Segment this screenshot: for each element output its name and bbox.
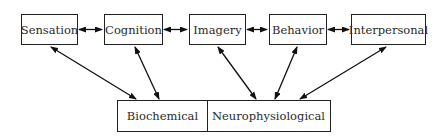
edge-imagery-neurophysiological — [218, 47, 256, 99]
node-neurophysiological: Neurophysiological — [207, 100, 331, 132]
edge-cognition-biochemical — [135, 47, 159, 99]
node-cognition: Cognition — [104, 14, 163, 45]
node-label: Neurophysiological — [212, 109, 325, 123]
node-label: Sensation — [21, 23, 78, 37]
node-interpersonal: Interpersonal — [351, 14, 426, 45]
node-imagery: Imagery — [189, 14, 246, 45]
node-label: Interpersonal — [349, 23, 428, 37]
node-label: Imagery — [193, 23, 241, 37]
edge-interpersonal-neurophysiological — [300, 47, 386, 99]
node-label: Cognition — [105, 23, 162, 37]
node-sensation: Sensation — [21, 14, 78, 45]
edge-sensation-biochemical — [51, 47, 136, 99]
node-biochemical: Biochemical — [117, 100, 208, 132]
node-behavior: Behavior — [269, 14, 327, 45]
node-label: Behavior — [272, 23, 324, 37]
node-label: Biochemical — [127, 109, 198, 123]
edge-behavior-neurophysiological — [275, 47, 297, 99]
